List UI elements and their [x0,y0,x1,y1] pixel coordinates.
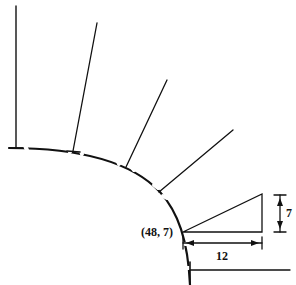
curve-arc [9,148,190,285]
diagram-canvas: (48, 7) 12 7 [0,0,296,285]
ray-3 [126,80,167,167]
horizontal-dimension-label: 12 [216,249,228,263]
ray-2 [73,23,97,151]
ray-4 [159,130,233,192]
slope-triangle [183,194,262,232]
ray-2-foot [67,151,80,152]
point-label: (48, 7) [141,225,173,239]
vertical-dimension-label: 7 [286,206,292,220]
